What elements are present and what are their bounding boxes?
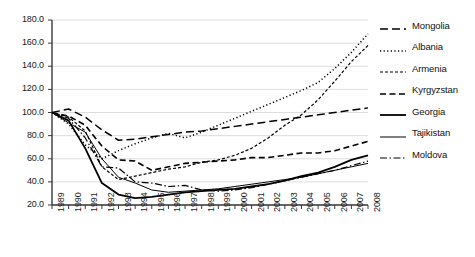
legend-label: Georgia: [412, 106, 445, 117]
legend-swatch-icon: [380, 63, 406, 73]
legend-item-albania[interactable]: Albania: [380, 40, 443, 54]
x-axis-tick-label: 2000: [239, 192, 249, 212]
x-axis-tick-label: 2006: [339, 192, 349, 212]
y-axis-tick-label: 20.0: [4, 199, 44, 209]
x-axis-tick-label: 2005: [322, 192, 332, 212]
x-axis-tick-label: 1996: [172, 192, 182, 212]
legend-swatch-icon: [380, 106, 406, 116]
data-series: [52, 34, 368, 198]
x-axis-tick-label: 2001: [256, 192, 266, 212]
x-axis-tick-label: 1989: [56, 192, 66, 212]
legend-label: Armenia: [412, 63, 447, 74]
x-axis-tick-label: 1991: [89, 192, 99, 212]
y-axis-tick-label: 100.0: [4, 107, 44, 117]
y-axis-tick-label: 160.0: [4, 37, 44, 47]
legend-swatch-icon: [380, 20, 406, 30]
x-axis-tick-label: 1992: [106, 192, 116, 212]
x-axis-tick-label: 2008: [372, 192, 382, 212]
legend-item-armenia[interactable]: Armenia: [380, 61, 447, 75]
x-axis-tick-label: 1994: [139, 192, 149, 212]
legend-item-moldova[interactable]: Moldova: [380, 147, 447, 161]
legend-label: Kyrgyzstan: [412, 84, 458, 95]
x-axis-tick-label: 1998: [206, 192, 216, 212]
x-axis-tick-label: 2003: [289, 192, 299, 212]
series-line-albania: [52, 34, 368, 159]
legend-swatch-icon: [380, 42, 406, 52]
legend-swatch-icon: [380, 149, 406, 159]
legend-swatch-icon: [380, 85, 406, 95]
legend-label: Albania: [412, 41, 443, 52]
legend-label: Moldova: [412, 149, 447, 160]
legend-label: Mongolia: [412, 20, 450, 31]
y-axis-tick-label: 120.0: [4, 83, 44, 93]
legend-item-kyrgyzstan[interactable]: Kyrgyzstan: [380, 83, 458, 97]
legend-swatch-icon: [380, 128, 406, 138]
x-axis-tick-label: 1995: [156, 192, 166, 212]
x-axis-tick-label: 2002: [272, 192, 282, 212]
line-chart: 180.0160.0140.0120.0100.080.060.040.020.…: [0, 0, 475, 257]
y-axis-tick-label: 60.0: [4, 153, 44, 163]
legend-item-tajikistan[interactable]: Tajikistan: [380, 126, 450, 140]
x-axis-tick-label: 2004: [305, 192, 315, 212]
x-axis-tick-label: 1990: [73, 192, 83, 212]
y-axis-tick-label: 140.0: [4, 60, 44, 70]
x-axis-tick-label: 2007: [355, 192, 365, 212]
y-axis-tick-label: 80.0: [4, 130, 44, 140]
x-axis-tick-label: 1999: [222, 192, 232, 212]
x-axis-tick-label: 1997: [189, 192, 199, 212]
x-axis-tick-label: 1993: [123, 192, 133, 212]
legend-item-mongolia[interactable]: Mongolia: [380, 18, 450, 32]
y-axis-tick-label: 40.0: [4, 176, 44, 186]
legend-label: Tajikistan: [412, 127, 450, 138]
y-axis-tick-label: 180.0: [4, 14, 44, 24]
legend-item-georgia[interactable]: Georgia: [380, 104, 445, 118]
